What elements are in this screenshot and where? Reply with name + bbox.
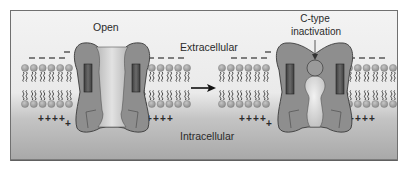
helix-right [336, 64, 344, 94]
svg-text:+: + [246, 113, 252, 124]
c-type-inactivation-diagram: +++++ +++++ +++++ +++++ Open Extracellul… [0, 0, 408, 174]
label-c-type: C-type [300, 13, 330, 24]
svg-text:+: + [253, 113, 259, 124]
label-inactivation: inactivation [291, 26, 341, 37]
channel-inactivated [276, 40, 352, 132]
label-intracellular: Intracellular [180, 130, 235, 142]
svg-text:+: + [153, 113, 159, 124]
svg-text:+: + [355, 113, 361, 124]
helix-left [286, 64, 294, 94]
channel-open [74, 43, 149, 132]
svg-text:+: + [369, 113, 375, 124]
svg-text:+: + [239, 113, 245, 124]
svg-text:+: + [65, 118, 71, 129]
helix-right [132, 64, 140, 92]
label-extracellular: Extracellular [180, 41, 238, 53]
svg-text:+: + [167, 113, 173, 124]
svg-text:+: + [52, 113, 58, 124]
selectivity-filter-collapsed [307, 60, 323, 76]
svg-text:+: + [38, 113, 44, 124]
svg-text:+: + [45, 113, 51, 124]
svg-text:+: + [362, 113, 368, 124]
label-open: Open [93, 21, 119, 33]
svg-text:+: + [266, 118, 272, 129]
svg-text:+: + [160, 113, 166, 124]
helix-left [84, 64, 92, 92]
